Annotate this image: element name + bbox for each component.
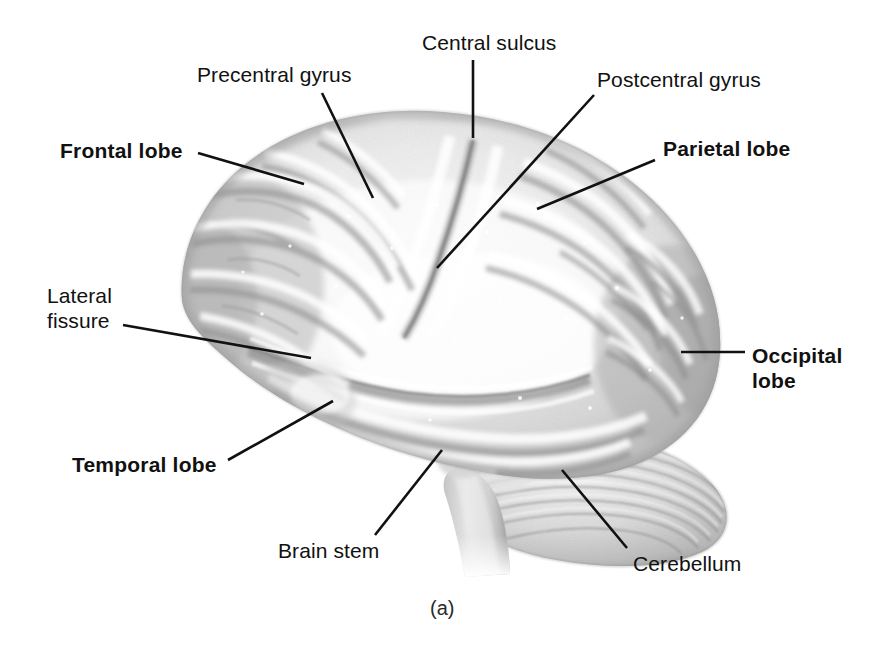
leader-line-temporal-lobe xyxy=(228,401,333,460)
brain-figure: Precentral gyrusCentral sulcusPostcentra… xyxy=(0,0,879,648)
figure-caption: (a) xyxy=(430,597,454,620)
label-frontal-lobe: Frontal lobe xyxy=(60,138,183,163)
cerebrum-shape xyxy=(140,111,750,500)
label-parietal-lobe: Parietal lobe xyxy=(663,136,790,161)
brain-illustration xyxy=(0,0,879,648)
label-lateral-fissure: Lateral fissure xyxy=(47,283,112,333)
label-brain-stem: Brain stem xyxy=(278,538,379,563)
label-postcentral-gyrus: Postcentral gyrus xyxy=(597,67,761,92)
label-cerebellum: Cerebellum xyxy=(633,551,741,576)
label-occipital-lobe: Occipital lobe xyxy=(752,343,843,393)
label-temporal-lobe: Temporal lobe xyxy=(72,452,217,477)
label-central-sulcus: Central sulcus xyxy=(422,30,556,55)
leader-line-brain-stem xyxy=(375,450,442,535)
label-precentral-gyrus: Precentral gyrus xyxy=(197,62,352,87)
